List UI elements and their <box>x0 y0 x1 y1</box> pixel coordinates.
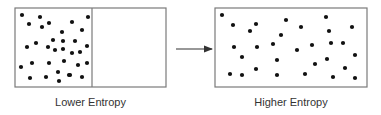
particle-dot <box>240 73 244 77</box>
particle-dot <box>295 48 299 52</box>
particle-dot <box>271 42 275 46</box>
particle-dot <box>350 25 354 29</box>
particle-dot <box>279 33 283 37</box>
particle-dot <box>70 20 74 24</box>
particle-dot <box>20 13 24 17</box>
particle-dot <box>275 58 279 62</box>
particle-dot <box>228 72 232 76</box>
particle-dot <box>76 63 80 67</box>
particle-dot <box>19 65 23 69</box>
particle-dot <box>254 22 258 26</box>
particle-dot <box>34 41 38 45</box>
lower-entropy-panel <box>15 8 166 87</box>
particle-dot <box>56 70 60 74</box>
particle-dot <box>62 59 66 63</box>
particle-dot <box>299 25 303 29</box>
particle-dot <box>331 75 335 79</box>
particle-dot <box>28 76 32 80</box>
particle-dot <box>255 45 259 49</box>
particle-dot <box>47 21 51 25</box>
particle-dot <box>240 55 244 59</box>
particle-dot <box>40 25 44 29</box>
particle-dot <box>353 76 357 80</box>
particle-dot <box>73 39 77 43</box>
particle-dot <box>80 28 84 32</box>
particle-dot <box>327 29 331 33</box>
particle-dot <box>254 67 258 71</box>
lower-entropy-label: Lower Entropy <box>40 96 141 108</box>
particle-dot <box>353 53 357 57</box>
particle-dot <box>303 72 307 76</box>
particle-dot <box>68 73 72 77</box>
left-particles <box>19 13 90 83</box>
particle-dot <box>324 15 328 19</box>
particle-dot <box>248 29 252 33</box>
particle-dot <box>51 38 55 42</box>
left-container-box <box>15 8 166 87</box>
particle-dot <box>78 50 82 54</box>
particle-dot <box>61 47 65 51</box>
higher-entropy-label: Higher Entropy <box>240 96 342 108</box>
particle-dot <box>343 66 347 70</box>
particle-dot <box>47 61 51 65</box>
particle-dot <box>46 45 50 49</box>
particle-dot <box>220 13 224 17</box>
particle-dot <box>231 23 235 27</box>
particle-dot <box>313 62 317 66</box>
particle-dot <box>27 22 31 26</box>
particle-dot <box>57 79 61 83</box>
particle-dot <box>38 15 42 19</box>
particle-dot <box>284 18 288 22</box>
particle-dot <box>25 45 29 49</box>
particle-dot <box>86 15 90 19</box>
particle-dot <box>85 44 89 48</box>
particle-dot <box>44 75 48 79</box>
higher-entropy-panel <box>215 8 367 87</box>
particle-dot <box>53 48 57 52</box>
particle-dot <box>341 41 345 45</box>
particle-dot <box>329 41 333 45</box>
particle-dot <box>232 45 236 49</box>
particle-dot <box>310 43 314 47</box>
right-container-box <box>215 8 367 87</box>
particle-dot <box>60 30 64 34</box>
particle-dot <box>30 61 34 65</box>
particle-dot <box>70 51 74 55</box>
particle-dot <box>80 75 84 79</box>
right-particles <box>220 13 357 80</box>
particle-dot <box>275 73 279 77</box>
particle-dot <box>61 39 65 43</box>
particle-dot <box>325 57 329 61</box>
particle-dot <box>85 61 89 65</box>
